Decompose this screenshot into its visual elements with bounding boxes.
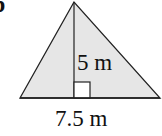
base-label: 7.5 m — [55, 107, 107, 130]
height-label: 5 m — [77, 51, 112, 74]
right-angle-marker — [74, 82, 90, 98]
